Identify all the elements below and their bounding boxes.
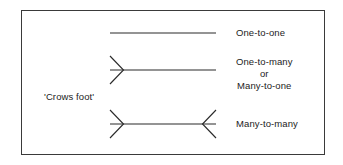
one-to-many-label-line-3: Many-to-one: [236, 80, 293, 92]
one-to-one-label: One-to-one: [236, 27, 285, 39]
many-to-many-label: Many-to-many: [236, 118, 298, 130]
one-to-many-label: One-to-many or Many-to-one: [236, 56, 293, 92]
crows-foot-notation-label: 'Crows foot': [44, 91, 94, 102]
one-to-many-label-line-1: One-to-many: [236, 56, 293, 68]
one-to-many-label-line-2: or: [236, 68, 293, 80]
crows-foot-notation-figure: 'Crows foot' One-to-one One-to-many or M…: [0, 0, 343, 165]
